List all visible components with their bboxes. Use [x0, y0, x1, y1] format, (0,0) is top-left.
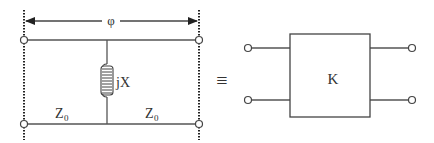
svg-text:Z: Z [55, 106, 64, 121]
phase-label: φ [107, 13, 115, 28]
terminal-top-right [196, 37, 203, 44]
svg-text:Z: Z [145, 106, 154, 121]
port1-terminal-top [245, 45, 252, 52]
equivalence-symbol: ≡ [216, 69, 227, 91]
svg-text:0: 0 [64, 113, 69, 123]
line-impedance-right-label: Z 0 [145, 106, 159, 123]
inverter-label: K [328, 71, 339, 87]
terminal-bottom-left [21, 121, 28, 128]
left-circuit: φ jX Z 0 Z 0 [21, 10, 203, 140]
port2-terminal-bottom [409, 97, 416, 104]
port1-terminal-bottom [245, 97, 252, 104]
inverter-equivalence-diagram: φ jX Z 0 Z 0 [0, 0, 434, 143]
svg-text:0: 0 [154, 113, 159, 123]
port2-terminal-top [409, 45, 416, 52]
line-impedance-left-label: Z 0 [55, 106, 69, 123]
inductor-icon [101, 64, 113, 97]
reactance-label: jX [115, 75, 130, 90]
terminal-bottom-right [196, 121, 203, 128]
terminal-top-left [21, 37, 28, 44]
right-circuit: K [245, 34, 416, 117]
